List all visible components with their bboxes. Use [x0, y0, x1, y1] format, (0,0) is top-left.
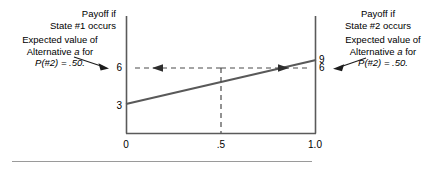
right-leader-arrowhead-icon: [333, 64, 344, 71]
left-leader-arrowhead-icon: [99, 63, 110, 70]
figure-bottom-rule: [12, 161, 312, 162]
right-pointing-arrowhead-icon: [278, 64, 289, 72]
plot-geometry: [0, 0, 438, 169]
left-pointing-arrowhead-icon: [152, 64, 163, 72]
payoff-expected-value-figure: Payoff if State #1 occurs Expected value…: [0, 0, 438, 169]
right-leader-line: [340, 58, 366, 67]
